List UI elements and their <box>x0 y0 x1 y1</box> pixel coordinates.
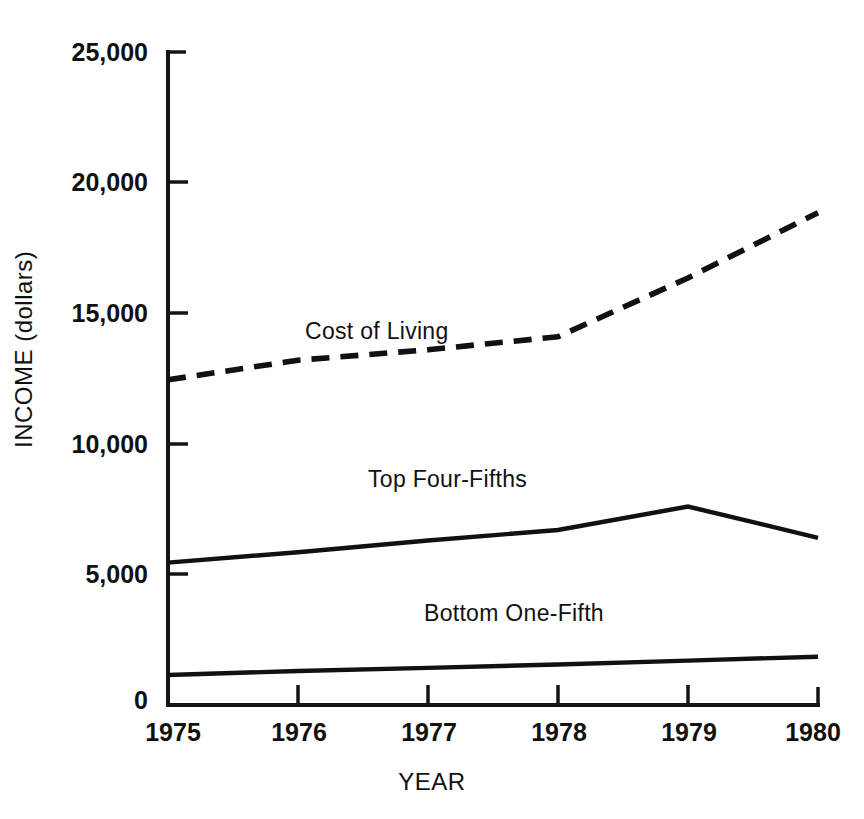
y-tick-label-5000: 5,000 <box>8 560 148 589</box>
x-tick-label-1977: 1977 <box>401 718 457 747</box>
y-tick-label-0: 0 <box>8 686 148 715</box>
x-tick-label-1979: 1979 <box>661 718 717 747</box>
x-tick-label-1978: 1978 <box>531 718 587 747</box>
series-label-bottom-one-fifth: Bottom One-Fifth <box>424 600 604 627</box>
line-chart: 25,000 20,000 15,000 10,000 5,000 0 1975… <box>0 0 864 819</box>
x-axis-title: YEAR <box>0 768 864 796</box>
series-label-top-four-fifths: Top Four-Fifths <box>368 466 527 493</box>
y-axis-title: INCOME (dollars) <box>10 251 38 448</box>
series-line-bottom-one-fifth <box>168 657 818 675</box>
x-tick-label-1980: 1980 <box>785 718 841 747</box>
series-label-cost-of-living: Cost of Living <box>305 318 449 345</box>
x-tick-marks <box>298 685 688 705</box>
y-tick-label-25000: 25,000 <box>8 38 148 67</box>
x-tick-label-1975: 1975 <box>145 718 201 747</box>
series-line-top-four-fifths <box>168 506 818 562</box>
x-tick-label-1976: 1976 <box>271 718 327 747</box>
series-line-cost-of-living <box>168 213 818 380</box>
y-tick-label-20000: 20,000 <box>8 168 148 197</box>
